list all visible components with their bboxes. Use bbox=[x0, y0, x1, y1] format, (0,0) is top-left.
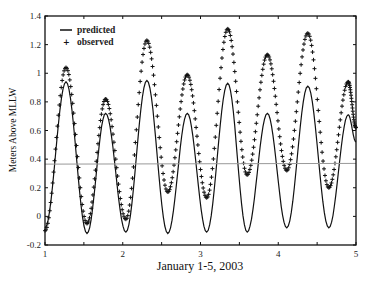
observed-point bbox=[99, 112, 103, 116]
observed-point bbox=[174, 148, 178, 152]
reference-level-line bbox=[45, 163, 356, 164]
observed-point bbox=[140, 60, 144, 64]
observed-point bbox=[49, 201, 53, 205]
observed-point bbox=[107, 107, 111, 111]
x-tick-label: 3 bbox=[198, 249, 203, 259]
y-tick-label: 1.2 bbox=[30, 40, 41, 50]
observed-point bbox=[51, 181, 55, 185]
observed-point bbox=[311, 50, 315, 54]
observed-point bbox=[169, 181, 173, 185]
observed-point bbox=[211, 157, 215, 161]
observed-point bbox=[208, 188, 212, 192]
observed-point bbox=[343, 88, 347, 92]
observed-point bbox=[253, 130, 257, 134]
y-axis-title: Meters Above MLLW bbox=[8, 88, 18, 172]
observed-point bbox=[300, 55, 304, 59]
y-tick-label: 0.6 bbox=[30, 126, 42, 136]
observed-point bbox=[179, 100, 183, 104]
observed-point bbox=[259, 80, 263, 84]
observed-point bbox=[192, 109, 196, 113]
observed-point bbox=[274, 102, 278, 106]
observed-point bbox=[322, 167, 326, 171]
y-tick-label: 1 bbox=[37, 68, 42, 78]
observed-point bbox=[214, 123, 218, 127]
observed-point bbox=[280, 154, 284, 158]
observed-point bbox=[101, 103, 105, 107]
observed-point bbox=[178, 107, 182, 111]
observed-point bbox=[188, 78, 192, 82]
observed-point bbox=[135, 115, 139, 119]
observed-point bbox=[54, 135, 58, 139]
observed-point bbox=[168, 185, 172, 189]
observed-point bbox=[332, 167, 336, 171]
observed-point bbox=[256, 104, 260, 108]
observed-point bbox=[277, 127, 281, 131]
observed-point bbox=[158, 146, 162, 150]
observed-point bbox=[315, 97, 319, 101]
observed-point bbox=[161, 172, 165, 176]
y-tick-label: 1.4 bbox=[30, 11, 42, 21]
observed-point bbox=[341, 98, 345, 102]
observed-point bbox=[260, 73, 264, 77]
observed-point bbox=[69, 85, 73, 89]
observed-point bbox=[181, 87, 185, 91]
observed-point bbox=[176, 123, 180, 127]
observed-point bbox=[182, 82, 186, 86]
observed-point bbox=[231, 52, 235, 56]
observed-point bbox=[53, 147, 57, 151]
observed-point bbox=[330, 177, 334, 181]
observed-point bbox=[290, 152, 294, 156]
observed-point bbox=[253, 138, 257, 142]
observed-point bbox=[312, 67, 316, 71]
observed-point bbox=[138, 79, 142, 83]
observed-point bbox=[240, 148, 244, 152]
observed-point bbox=[210, 167, 214, 171]
observed-point bbox=[232, 60, 236, 64]
observed-point bbox=[234, 79, 238, 83]
observed-point bbox=[176, 131, 180, 135]
observed-point bbox=[319, 141, 323, 145]
observed-point bbox=[337, 133, 341, 137]
observed-point bbox=[215, 111, 219, 115]
observed-point bbox=[61, 73, 65, 77]
observed-point bbox=[299, 63, 303, 67]
observed-point bbox=[310, 43, 314, 47]
observed-point bbox=[52, 170, 56, 174]
observed-point bbox=[279, 142, 283, 146]
x-tick-label: 4 bbox=[276, 249, 281, 259]
observed-point bbox=[109, 118, 113, 122]
observed-point bbox=[250, 158, 254, 162]
observed-point bbox=[127, 209, 131, 213]
observed-point bbox=[53, 159, 57, 163]
observed-point bbox=[251, 152, 255, 156]
observed-point bbox=[223, 35, 227, 39]
tide-chart: -0.200.20.40.60.811.21.412345 predicted … bbox=[0, 0, 369, 283]
legend-observed-label: observed bbox=[77, 37, 114, 47]
observed-point bbox=[157, 136, 161, 140]
observed-point bbox=[233, 70, 237, 74]
observed-point bbox=[318, 130, 322, 134]
y-tick-label: 0.8 bbox=[30, 97, 42, 107]
y-tick-label: 0 bbox=[37, 211, 42, 221]
observed-point bbox=[239, 139, 243, 143]
observed-point bbox=[171, 170, 175, 174]
observed-point bbox=[272, 79, 276, 83]
observed-point bbox=[241, 155, 245, 159]
observed-point bbox=[329, 181, 333, 185]
observed-point bbox=[173, 156, 177, 160]
observed-point bbox=[334, 155, 338, 159]
observed-point bbox=[271, 73, 275, 77]
observed-point bbox=[254, 121, 258, 125]
observed-point bbox=[289, 158, 293, 162]
observed-point bbox=[335, 148, 339, 152]
observed-point bbox=[193, 117, 197, 121]
observed-point bbox=[48, 209, 52, 213]
observed-point bbox=[314, 87, 318, 91]
observed-point bbox=[154, 103, 158, 107]
observed-point bbox=[153, 93, 157, 97]
observed-point bbox=[68, 78, 72, 82]
observed-point bbox=[198, 160, 202, 164]
observed-point bbox=[67, 73, 71, 77]
observed-point bbox=[142, 46, 146, 50]
observed-point bbox=[302, 42, 306, 46]
